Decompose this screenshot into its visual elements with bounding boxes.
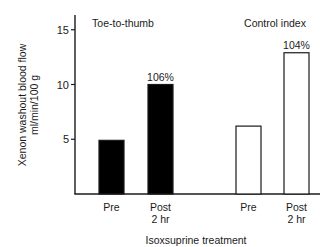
bar-chart: 51015 Xenon washout blood flowml/min/100…: [0, 0, 336, 247]
bar: [236, 126, 261, 194]
y-tick-label: 15: [57, 24, 69, 36]
x-axis-label: Isoxsuprine treatment: [146, 234, 247, 246]
x-tick-label: 2 hr: [287, 213, 306, 225]
bar-annotation: 106%: [147, 71, 174, 83]
axes: 51015: [57, 15, 320, 194]
y-axis-unit: ml/min/100 g: [28, 75, 40, 135]
bar: [148, 85, 173, 195]
group-title: Toe-to-thumb: [92, 17, 154, 29]
bars: [99, 53, 309, 194]
bar: [99, 140, 124, 194]
x-tick-label: Pre: [103, 201, 120, 213]
x-tick-label: 2 hr: [151, 213, 170, 225]
x-tick-label: Pre: [240, 201, 257, 213]
bar-annotation: 104%: [283, 39, 310, 51]
y-tick-label: 5: [63, 133, 69, 145]
bar: [284, 53, 309, 194]
x-tick-label: Post: [150, 201, 171, 213]
group-title: Control index: [244, 17, 307, 29]
x-tick-label: Post: [286, 201, 307, 213]
y-tick-label: 10: [57, 79, 69, 91]
y-axis-label: Xenon washout blood flow: [16, 43, 28, 166]
